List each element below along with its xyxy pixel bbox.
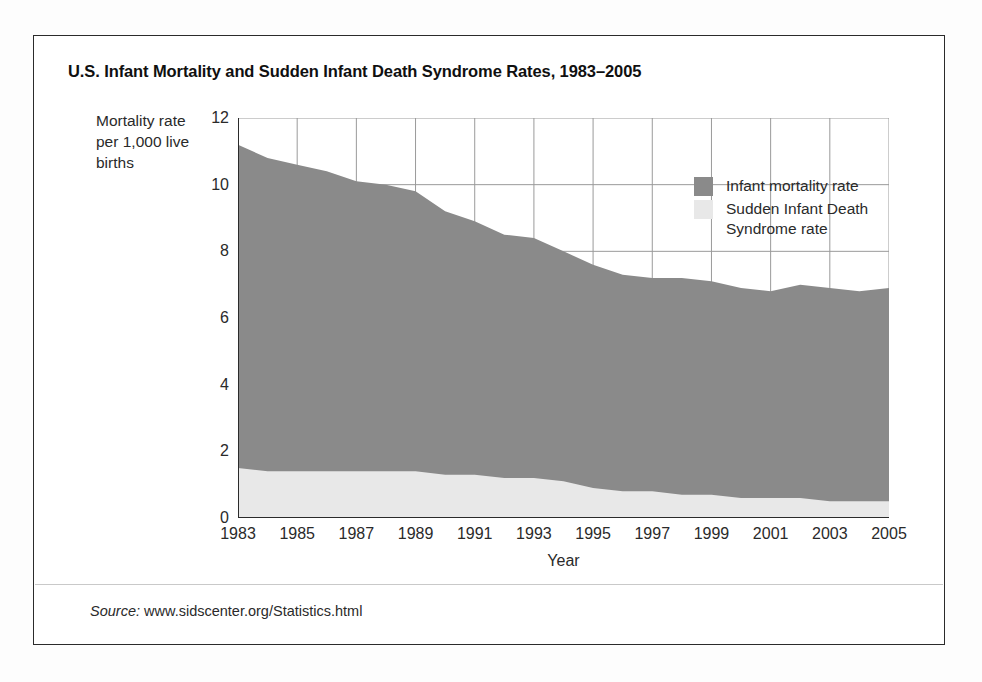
x-tick-label: 1985 bbox=[279, 525, 315, 543]
source-divider bbox=[35, 584, 943, 585]
figure-page: U.S. Infant Mortality and Sudden Infant … bbox=[0, 0, 982, 682]
x-tick-label: 2003 bbox=[812, 525, 848, 543]
legend-label: Infant mortality rate bbox=[726, 176, 859, 196]
chart-title: U.S. Infant Mortality and Sudden Infant … bbox=[68, 62, 641, 81]
x-tick-label: 1983 bbox=[220, 525, 256, 543]
x-tick-label: 2001 bbox=[753, 525, 789, 543]
x-tick-label: 2005 bbox=[871, 525, 907, 543]
legend-item-infant-mortality: Infant mortality rate bbox=[694, 176, 868, 196]
figure-frame: U.S. Infant Mortality and Sudden Infant … bbox=[33, 35, 945, 645]
x-tick-label: 1991 bbox=[457, 525, 493, 543]
y-tick-label: 4 bbox=[220, 376, 229, 394]
legend-swatch-icon bbox=[694, 177, 713, 196]
x-tick-label: 1987 bbox=[339, 525, 375, 543]
y-tick-label: 6 bbox=[220, 309, 229, 327]
source-value: www.sidscenter.org/Statistics.html bbox=[144, 603, 362, 619]
source-note: Source: www.sidscenter.org/Statistics.ht… bbox=[90, 603, 362, 619]
x-axis-title: Year bbox=[238, 552, 889, 570]
x-tick-label: 1995 bbox=[575, 525, 611, 543]
x-tick-label: 1993 bbox=[516, 525, 552, 543]
y-axis-title: Mortality rate per 1,000 live births bbox=[96, 110, 196, 173]
y-tick-label: 8 bbox=[220, 242, 229, 260]
y-tick-label: 12 bbox=[211, 109, 229, 127]
x-tick-label: 1999 bbox=[694, 525, 730, 543]
legend-swatch-icon bbox=[694, 200, 713, 219]
legend-label: Sudden Infant Death Syndrome rate bbox=[726, 199, 868, 239]
x-tick-label: 1997 bbox=[634, 525, 670, 543]
chart-legend: Infant mortality rate Sudden Infant Deat… bbox=[694, 176, 868, 242]
y-tick-label: 10 bbox=[211, 176, 229, 194]
source-label: Source: bbox=[90, 603, 140, 619]
legend-item-sids: Sudden Infant Death Syndrome rate bbox=[694, 199, 868, 239]
y-tick-label: 2 bbox=[220, 442, 229, 460]
x-tick-label: 1989 bbox=[398, 525, 434, 543]
